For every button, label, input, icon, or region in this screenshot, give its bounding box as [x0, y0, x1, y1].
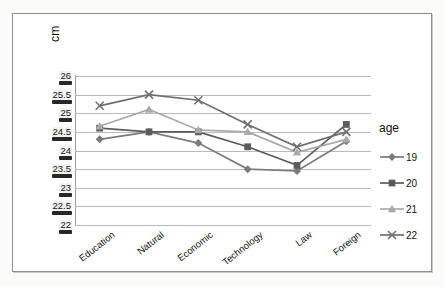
data-point-marker: [145, 105, 153, 112]
legend-item-label: 21: [406, 204, 417, 215]
legend-swatch-cross-icon: [379, 228, 405, 242]
legend: age 19202122: [379, 122, 444, 248]
data-point-marker: [342, 135, 350, 142]
x-axis-tick-label: Economic: [175, 229, 215, 263]
data-point-marker: [389, 180, 396, 187]
x-axis-tick-label: Natural: [135, 229, 166, 257]
y-axis-tick-label: 24.5: [52, 127, 73, 137]
legend-item[interactable]: 19: [379, 144, 444, 170]
legend-swatch-square-icon: [379, 176, 405, 190]
y-axis-title: cm: [49, 26, 61, 42]
data-point-marker: [388, 153, 396, 161]
legend-items: 19202122: [379, 144, 444, 248]
data-point-marker: [294, 162, 301, 169]
y-axis-tick-labels: 2625.52524.52423.52322.522: [37, 76, 72, 225]
chart-frame: cm 2625.52524.52423.52322.522 EducationN…: [12, 13, 432, 272]
legend-title: age: [379, 122, 444, 135]
y-axis-tick-label: 25: [59, 108, 72, 118]
legend-item-label: 20: [406, 178, 417, 189]
series-line: [100, 132, 347, 171]
legend-item[interactable]: 22: [379, 222, 444, 248]
legend-swatch-triangle-icon: [379, 202, 405, 216]
legend-item-label: 19: [406, 152, 417, 163]
data-point-marker: [96, 135, 104, 143]
data-point-marker: [244, 120, 252, 128]
y-axis-tick-label: 22: [59, 220, 72, 230]
data-point-marker: [194, 139, 202, 147]
series-overlay: [75, 76, 371, 225]
legend-item[interactable]: 20: [379, 170, 444, 196]
legend-item-label: 22: [406, 230, 417, 241]
y-axis-tick-label: 23.5: [52, 164, 73, 174]
legend-item[interactable]: 21: [379, 196, 444, 222]
x-axis-tick-label: Foreign: [331, 229, 363, 258]
legend-swatch-diamond-icon: [379, 150, 405, 164]
y-axis-tick-label: 23: [59, 183, 72, 193]
x-axis-tick-label: Technology: [220, 229, 265, 267]
data-point-marker: [244, 165, 252, 173]
data-point-marker: [146, 128, 153, 135]
scanned-page: cm 2625.52524.52423.52322.522 EducationN…: [0, 0, 444, 287]
x-axis-tick-label: Education: [76, 229, 116, 264]
y-axis-tick-label: 26: [59, 71, 72, 81]
y-axis-tick-label: 24: [59, 146, 72, 156]
x-axis-tick-label: Law: [293, 229, 314, 248]
y-axis-tick-label: 25.5: [52, 90, 73, 100]
data-point-marker: [343, 121, 350, 128]
y-axis-tick-label: 22.5: [52, 201, 73, 211]
data-point-marker: [244, 143, 251, 150]
x-axis-tick-labels: EducationNaturalEconomicTechnologyLawFor…: [75, 226, 371, 286]
